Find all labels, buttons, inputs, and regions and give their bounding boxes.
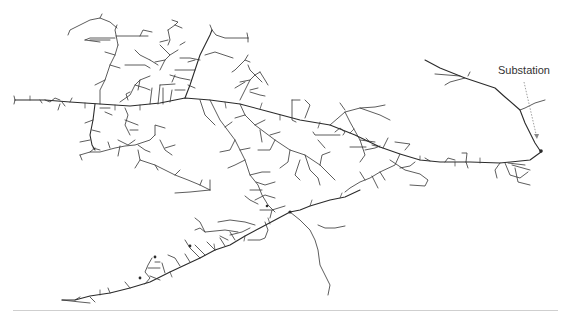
east-central-branches [345, 138, 468, 192]
west-branches [14, 14, 210, 193]
divider-line [13, 310, 558, 311]
substation-branches [495, 149, 543, 185]
central-north-branches [292, 100, 390, 162]
substation-label: Substation [498, 64, 550, 76]
trunk-stubs [30, 96, 480, 295]
network-diagram [0, 0, 570, 316]
junction-branches [195, 190, 360, 295]
substation-arrow [524, 82, 539, 139]
southwest-feeder [62, 212, 290, 303]
